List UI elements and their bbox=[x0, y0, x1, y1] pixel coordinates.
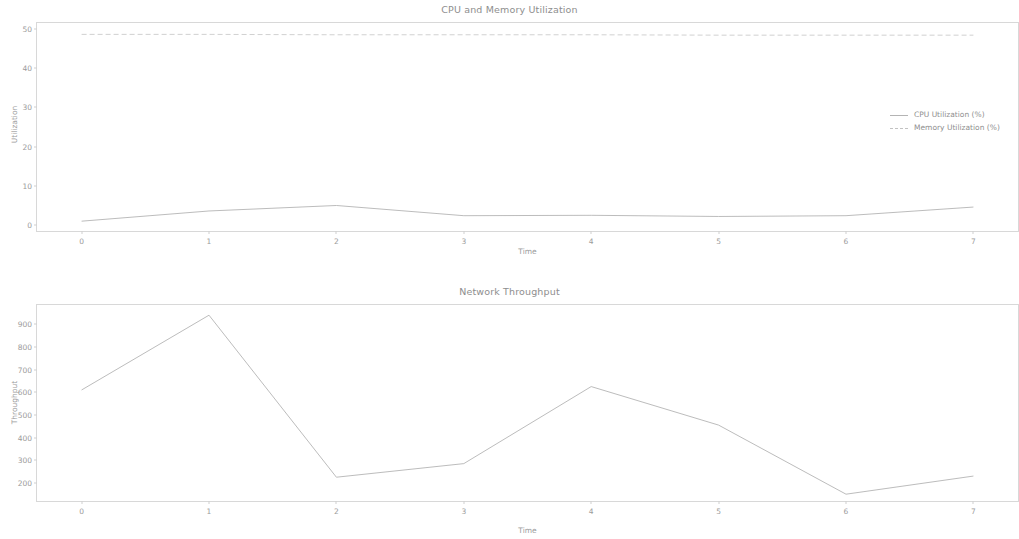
y-axis-tick-mark bbox=[34, 107, 37, 108]
y-axis-tick-mark bbox=[34, 28, 37, 29]
line-plot-cpu-memory bbox=[37, 23, 1018, 231]
x-axis-tick-label: 0 bbox=[79, 507, 84, 516]
y-axis-tick-mark bbox=[34, 482, 37, 483]
x-axis-tick-label: 2 bbox=[334, 237, 339, 246]
chart-title-network-throughput: Network Throughput bbox=[0, 286, 1019, 297]
y-axis-label-utilization: Utilization bbox=[10, 95, 19, 155]
y-axis-tick-mark bbox=[34, 437, 37, 438]
legend-line-icon-memory bbox=[890, 124, 908, 131]
x-axis-tick-label: 6 bbox=[844, 507, 849, 516]
y-axis-tick-mark bbox=[34, 369, 37, 370]
y-axis-tick-label: 600 bbox=[18, 388, 32, 397]
figure-canvas: CPU and Memory Utilization 0102030405001… bbox=[0, 0, 1019, 539]
y-axis-tick-mark bbox=[34, 324, 37, 325]
x-axis-tick-mark bbox=[846, 231, 847, 234]
series-line-0 bbox=[82, 315, 974, 494]
y-axis-tick-label: 300 bbox=[18, 456, 32, 465]
chart-panel-cpu-memory: CPU and Memory Utilization 0102030405001… bbox=[0, 0, 1019, 262]
y-axis-tick-label: 800 bbox=[18, 342, 32, 351]
x-axis-label-time-cpu: Time bbox=[36, 247, 1019, 256]
x-axis-tick-label: 7 bbox=[971, 507, 976, 516]
chart-panel-network-throughput: Network Throughput 200300400500600700800… bbox=[0, 280, 1019, 539]
plot-area-cpu-memory: 0102030405001234567 bbox=[36, 22, 1019, 232]
y-axis-tick-label: 500 bbox=[18, 410, 32, 419]
legend-label-cpu: CPU Utilization (%) bbox=[914, 111, 985, 119]
y-axis-tick-mark bbox=[34, 185, 37, 186]
x-axis-tick-label: 4 bbox=[589, 237, 594, 246]
x-axis-tick-mark bbox=[208, 231, 209, 234]
y-axis-tick-label: 200 bbox=[18, 478, 32, 487]
series-line-0 bbox=[82, 205, 974, 221]
x-axis-tick-mark bbox=[336, 231, 337, 234]
plot-area-network-throughput: 20030040050060070080090001234567 bbox=[36, 304, 1019, 502]
x-axis-tick-mark bbox=[208, 501, 209, 504]
x-axis-tick-label: 0 bbox=[79, 237, 84, 246]
legend-cpu-memory: CPU Utilization (%) Memory Utilization (… bbox=[890, 108, 1000, 134]
y-axis-tick-mark bbox=[34, 68, 37, 69]
x-axis-tick-mark bbox=[81, 231, 82, 234]
x-axis-tick-label: 4 bbox=[589, 507, 594, 516]
line-plot-network-throughput bbox=[37, 305, 1018, 501]
x-axis-tick-mark bbox=[81, 501, 82, 504]
x-axis-tick-label: 6 bbox=[844, 237, 849, 246]
y-axis-tick-mark bbox=[34, 414, 37, 415]
x-axis-tick-mark bbox=[463, 501, 464, 504]
x-axis-tick-label: 5 bbox=[716, 507, 721, 516]
x-axis-tick-mark bbox=[336, 501, 337, 504]
x-axis-tick-label: 1 bbox=[207, 237, 212, 246]
legend-label-memory: Memory Utilization (%) bbox=[914, 124, 1000, 132]
y-axis-tick-label: 0 bbox=[27, 221, 32, 230]
x-axis-tick-mark bbox=[463, 231, 464, 234]
x-axis-tick-mark bbox=[591, 501, 592, 504]
x-axis-tick-mark bbox=[718, 231, 719, 234]
y-axis-tick-label: 40 bbox=[22, 64, 32, 73]
legend-line-icon-cpu bbox=[890, 111, 908, 118]
x-axis-tick-label: 7 bbox=[971, 237, 976, 246]
legend-item-memory: Memory Utilization (%) bbox=[890, 121, 1000, 134]
x-axis-tick-label: 1 bbox=[207, 507, 212, 516]
y-axis-tick-mark bbox=[34, 225, 37, 226]
y-axis-tick-mark bbox=[34, 460, 37, 461]
x-axis-tick-label: 5 bbox=[716, 237, 721, 246]
x-axis-tick-mark bbox=[718, 501, 719, 504]
x-axis-tick-mark bbox=[973, 231, 974, 234]
y-axis-tick-label: 30 bbox=[22, 103, 32, 112]
x-axis-tick-label: 3 bbox=[461, 237, 466, 246]
x-axis-tick-mark bbox=[973, 501, 974, 504]
x-axis-label-time-network: Time bbox=[36, 526, 1019, 535]
y-axis-tick-label: 900 bbox=[18, 320, 32, 329]
x-axis-tick-label: 3 bbox=[461, 507, 466, 516]
x-axis-tick-mark bbox=[846, 501, 847, 504]
y-axis-label-throughput: Throughput bbox=[10, 373, 19, 433]
x-axis-tick-label: 2 bbox=[334, 507, 339, 516]
y-axis-tick-mark bbox=[34, 146, 37, 147]
y-axis-tick-label: 20 bbox=[22, 142, 32, 151]
y-axis-tick-mark bbox=[34, 346, 37, 347]
y-axis-tick-label: 50 bbox=[22, 24, 32, 33]
y-axis-tick-label: 400 bbox=[18, 433, 32, 442]
y-axis-tick-mark bbox=[34, 392, 37, 393]
y-axis-tick-label: 10 bbox=[22, 181, 32, 190]
x-axis-tick-mark bbox=[591, 231, 592, 234]
legend-item-cpu: CPU Utilization (%) bbox=[890, 108, 1000, 121]
y-axis-tick-label: 700 bbox=[18, 365, 32, 374]
chart-title-cpu-memory: CPU and Memory Utilization bbox=[0, 4, 1019, 15]
series-line-1 bbox=[82, 34, 974, 35]
